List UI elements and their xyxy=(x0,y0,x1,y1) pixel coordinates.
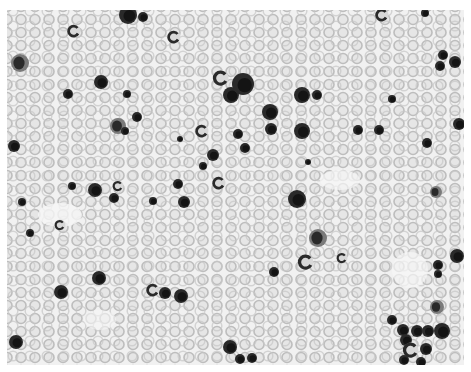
nucleated-cell xyxy=(18,198,26,206)
nucleated-cell xyxy=(262,104,278,120)
nucleated-cell xyxy=(177,136,183,142)
nucleated-cell xyxy=(88,183,102,197)
nucleated-cell xyxy=(109,193,119,203)
nucleated-cell xyxy=(113,181,124,192)
nucleated-cell xyxy=(196,125,209,138)
nucleated-cell xyxy=(422,138,432,148)
nucleated-cell xyxy=(309,229,327,247)
nucleated-cell xyxy=(337,253,348,264)
nucleated-cell xyxy=(305,159,311,165)
nucleated-cell xyxy=(430,186,442,198)
nucleated-cell xyxy=(178,196,190,208)
nucleated-cell xyxy=(430,300,444,314)
nucleated-cell xyxy=(299,255,314,270)
nucleated-cell xyxy=(149,197,157,205)
nucleated-cell xyxy=(435,61,445,71)
nucleated-cell xyxy=(173,179,183,189)
nucleated-cell xyxy=(121,127,129,135)
nucleated-cell xyxy=(54,285,68,299)
nucleated-cell xyxy=(399,355,409,365)
nucleated-cell xyxy=(388,95,396,103)
blood-smear-image xyxy=(7,10,464,365)
nucleated-cell xyxy=(312,90,322,100)
nucleated-cell xyxy=(233,129,243,139)
nucleated-cell xyxy=(374,125,384,135)
nucleated-cell xyxy=(68,182,76,190)
nucleated-cell xyxy=(9,335,23,349)
nucleated-cell xyxy=(232,73,254,95)
nucleated-cell xyxy=(11,54,29,72)
nucleated-cell xyxy=(94,75,108,89)
nucleated-cell xyxy=(168,31,181,44)
nucleated-cell xyxy=(288,190,306,208)
nucleated-cell xyxy=(26,229,34,237)
micrograph-frame xyxy=(0,0,471,372)
nucleated-cell xyxy=(247,353,257,363)
nucleated-cell xyxy=(404,343,419,358)
nucleated-cell xyxy=(63,89,73,99)
nucleated-cell xyxy=(8,140,20,152)
nucleated-cell xyxy=(420,343,432,355)
nucleated-cell xyxy=(438,50,448,60)
nucleated-cell xyxy=(147,284,160,297)
nucleated-cell xyxy=(213,177,226,190)
nucleated-cell xyxy=(68,25,81,38)
nucleated-cell xyxy=(353,125,363,135)
nucleated-cell xyxy=(223,340,237,354)
nucleated-cell xyxy=(123,90,131,98)
nucleated-cell xyxy=(269,267,279,277)
nucleated-cell xyxy=(174,289,188,303)
nucleated-cell xyxy=(207,149,219,161)
nucleated-cell xyxy=(387,315,397,325)
nucleated-cell xyxy=(265,123,277,135)
nucleated-cell xyxy=(92,271,106,285)
nucleated-cell xyxy=(433,260,443,270)
nucleated-cell xyxy=(294,123,310,139)
nucleated-cell xyxy=(235,354,245,364)
nucleated-cell xyxy=(434,323,450,339)
nucleated-cell xyxy=(159,287,171,299)
nucleated-cell xyxy=(422,325,434,337)
nucleated-cell xyxy=(240,143,250,153)
nucleated-cell xyxy=(411,325,423,337)
nucleated-cell xyxy=(138,12,148,22)
blood-smear-field xyxy=(7,10,464,365)
nucleated-cell xyxy=(132,112,142,122)
nucleated-cell xyxy=(214,71,229,86)
nucleated-cell xyxy=(450,249,464,263)
nucleated-cell xyxy=(55,220,66,231)
nucleated-cell xyxy=(294,87,310,103)
nucleated-cell xyxy=(449,56,461,68)
nucleated-cell xyxy=(199,162,207,170)
nucleated-cell xyxy=(434,270,442,278)
